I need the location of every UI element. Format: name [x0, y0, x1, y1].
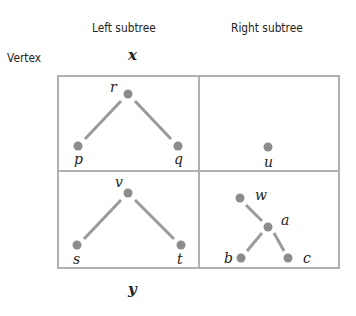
edge-v-s — [84, 200, 121, 239]
label-w: w — [255, 187, 267, 203]
grid — [58, 76, 339, 268]
label-c: c — [303, 250, 311, 266]
label-b: b — [224, 250, 233, 266]
node-q — [174, 142, 183, 151]
node-s — [73, 241, 82, 250]
node-a — [264, 223, 273, 232]
node-u — [264, 143, 273, 152]
edges — [84, 101, 284, 251]
label-u: u — [264, 154, 273, 170]
node-w — [236, 194, 245, 203]
node-v — [124, 189, 133, 198]
label-a: a — [281, 212, 289, 228]
node-c — [284, 254, 293, 263]
node-r — [124, 90, 133, 99]
edge-v-t — [135, 200, 174, 239]
node-p — [74, 142, 83, 151]
node-labels: r p q u v s t w a b c — [73, 79, 311, 267]
label-v: v — [115, 174, 123, 190]
edge-r-p — [85, 101, 121, 139]
node-t — [177, 241, 186, 250]
label-t: t — [177, 251, 183, 267]
edge-a-b — [247, 233, 262, 251]
edge-a-c — [274, 233, 284, 251]
node-b — [237, 254, 246, 263]
edge-w-a — [246, 205, 262, 221]
label-s: s — [73, 251, 80, 267]
label-p: p — [74, 151, 83, 167]
label-r: r — [110, 79, 118, 95]
edge-r-q — [135, 101, 171, 139]
label-q: q — [174, 151, 183, 167]
subtree-grid-diagram: r p q u v s t w a b c — [0, 0, 356, 316]
